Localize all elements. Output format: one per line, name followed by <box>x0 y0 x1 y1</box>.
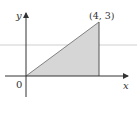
point-label: (4, 3) <box>89 10 115 21</box>
origin-label: 0 <box>16 79 22 90</box>
y-axis-label: y <box>15 10 22 21</box>
diagram-canvas: y (4, 3) 0 x <box>0 0 137 121</box>
x-axis-label: x <box>123 80 129 91</box>
